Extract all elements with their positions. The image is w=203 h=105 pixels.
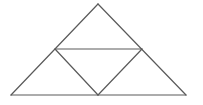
midline-left-diagonal	[55, 49, 98, 95]
diagram-canvas	[0, 0, 203, 105]
triangle-diagram	[0, 0, 203, 105]
segment-group	[11, 4, 186, 95]
midline-right-diagonal	[98, 49, 142, 95]
